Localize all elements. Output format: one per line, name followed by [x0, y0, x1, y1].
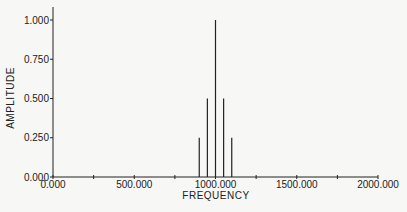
y-tick-label: 0.750: [24, 54, 49, 65]
x-tick-label: 2000.000: [357, 179, 399, 190]
axes: 0.000500.0001000.0001500.0002000.0000.00…: [24, 7, 399, 190]
spectral-lines: [199, 20, 232, 177]
x-tick-label: 1000.000: [195, 179, 237, 190]
x-tick-label: 500.000: [116, 179, 153, 190]
x-tick-label: 1500.000: [276, 179, 318, 190]
y-tick-label: 0.000: [24, 172, 49, 183]
x-axis-label: FREQUENCY: [182, 190, 249, 201]
y-tick-label: 1.000: [24, 15, 49, 26]
y-tick-label: 0.500: [24, 93, 49, 104]
y-tick-label: 0.250: [24, 132, 49, 143]
y-axis-label: AMPLITUDE: [5, 67, 16, 129]
spectrum-chart: 0.000500.0001000.0001500.0002000.0000.00…: [0, 0, 407, 212]
